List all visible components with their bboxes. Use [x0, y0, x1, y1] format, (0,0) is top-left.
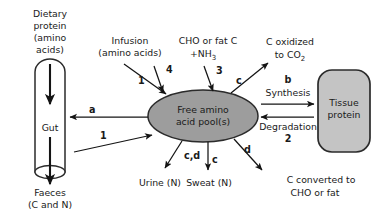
cho-fat-nh-subscript: 3 — [212, 54, 216, 62]
arrow-cho-fat-into-pool-3 — [204, 66, 213, 91]
tissue-protein-line-2: protein — [327, 109, 360, 120]
c-oxidized-line-2: to CO2 — [275, 49, 306, 63]
dietary-protein-line-4: acids) — [36, 44, 64, 55]
infusion-line-1: Infusion — [112, 35, 149, 46]
arrow-infusion-to-pool — [124, 64, 166, 94]
pool-label-line-1: Free amino — [177, 104, 229, 115]
degradation-label: Degradation — [259, 121, 317, 132]
arrow-label-3: 3 — [216, 65, 223, 76]
sweat-label: Sweat (N) — [186, 177, 232, 188]
c-converted-line-1: C converted to — [287, 174, 356, 185]
urine-label: Urine (N) — [139, 177, 181, 188]
cho-fat-c-label: CHO or fat C +NH3 — [179, 35, 237, 62]
cho-fat-line-2: +NH3 — [190, 48, 216, 62]
c-converted-label: C converted to CHO or fat — [287, 174, 356, 198]
free-amino-acid-pool: Free amino acid pool(s) — [148, 90, 258, 142]
tissue-protein-line-1: Tissue — [328, 97, 359, 108]
dietary-protein-label: Dietary protein (amino acids) — [33, 8, 68, 55]
cho-fat-line-1: CHO or fat C — [179, 35, 237, 46]
faeces-line-2: (C and N) — [28, 199, 72, 210]
arrow-pool-to-urine — [165, 141, 182, 168]
c-converted-line-2: CHO or fat — [291, 187, 340, 198]
arrow-label-synthesis-b: b — [285, 74, 292, 85]
arrow-label-c-oxidized: c — [236, 75, 242, 86]
faeces-line-1: Faeces — [34, 187, 66, 198]
infusion-label: Infusion (amino acids) — [98, 35, 161, 58]
arrow-label-cd: c,d — [184, 150, 200, 161]
arrow-label-sweat-c: c — [212, 154, 218, 165]
arrow-gut-to-pool-1 — [74, 135, 152, 152]
arrow-label-a: a — [89, 104, 95, 115]
arrow-label-infusion-1: 1 — [138, 75, 145, 86]
c-oxidized-label: C oxidized to CO2 — [266, 36, 314, 63]
arrow-label-degradation-2: 2 — [285, 133, 292, 144]
dietary-protein-line-3: (amino — [34, 32, 67, 43]
cho-fat-nh-prefix: +NH — [190, 48, 212, 59]
dietary-protein-line-1: Dietary — [33, 8, 68, 19]
gut-label: Gut — [42, 122, 59, 133]
c-oxidized-line-1: C oxidized — [266, 36, 314, 47]
infusion-line-2: (amino acids) — [98, 47, 161, 58]
c-oxidized-co-prefix: to CO — [275, 49, 301, 60]
pool-label-line-2: acid pool(s) — [176, 116, 230, 127]
diagram-canvas: Gut Dietary protein (amino acids) Faeces… — [0, 0, 386, 219]
dietary-protein-line-2: protein — [33, 20, 66, 31]
synthesis-label: Synthesis — [266, 87, 311, 98]
tissue-protein-box: Tissue protein — [318, 70, 370, 152]
synthesis-degradation-group: b Synthesis Degradation 2 — [259, 74, 317, 144]
arrow-label-d: d — [244, 144, 251, 155]
arrow-label-gut-1: 1 — [100, 130, 107, 141]
arrow-label-4: 4 — [166, 64, 173, 75]
c-oxidized-co-subscript: 2 — [301, 55, 305, 63]
faeces-label: Faeces (C and N) — [28, 187, 72, 210]
amino-acid-metabolism-diagram: Gut Dietary protein (amino acids) Faeces… — [0, 0, 386, 219]
